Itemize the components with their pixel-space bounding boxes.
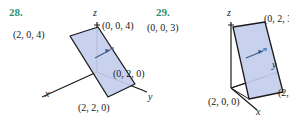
point-label-2-2-0: (2, 2, 0) xyxy=(78,103,110,113)
textbook-figure-pair: 28. n z y x (0, 0, 4) (2, 0, 4) (0, 2, 0… xyxy=(0,0,289,120)
y-axis-label-29: y xyxy=(272,60,276,70)
figure-28: 28. n z y x (0, 0, 4) (2, 0, 4) (0, 2, 0… xyxy=(0,0,150,120)
point-label-0-0-4: (0, 0, 4) xyxy=(102,21,134,31)
figure-29: 29. n z y x (0, 0, 3) (0, 2, 3) (2, 0, 0… xyxy=(150,0,289,120)
z-axis-label-28: z xyxy=(93,8,97,18)
normal-vector-label-28: n xyxy=(110,45,114,52)
x-axis-line-28 xyxy=(42,72,97,97)
point-label-0-0-3: (0, 0, 3) xyxy=(147,23,179,33)
x-axis-label-28: x xyxy=(45,89,49,99)
point-label-2-0-4: (2, 0, 4) xyxy=(13,30,45,40)
figure-28-graphic xyxy=(0,0,150,120)
x-axis-label-29: x xyxy=(256,107,260,117)
normal-vector-label-29: n xyxy=(263,46,267,53)
point-label-2-2-0-clipped: (2, xyxy=(278,88,289,98)
z-axis-label-29: z xyxy=(227,8,231,18)
plane-28 xyxy=(70,27,135,97)
point-label-0-2-0: (0, 2, 0) xyxy=(113,69,145,79)
point-label-0-2-3: (0, 2, 3) xyxy=(264,14,289,24)
point-label-2-0-0: (2, 0, 0) xyxy=(208,97,240,107)
